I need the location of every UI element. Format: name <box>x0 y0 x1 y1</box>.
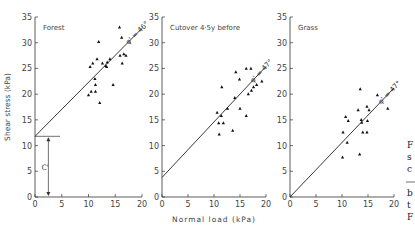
y-tick-label: 5 <box>154 167 159 176</box>
caption-fragment: F <box>407 212 413 222</box>
data-point <box>118 54 121 57</box>
x-tick-label: 0 <box>32 200 37 209</box>
data-point <box>218 132 221 135</box>
y-tick-label: 25 <box>277 64 287 73</box>
chart-panel-1: 0510152025303505101520Cutover 4·5y befor… <box>149 13 275 209</box>
data-point <box>365 130 368 133</box>
figure-canvas: 0510152025303505101520Forestφ' = 46°0510… <box>0 0 415 236</box>
fit-line <box>290 88 394 197</box>
data-point <box>98 101 101 104</box>
data-point <box>233 96 236 99</box>
y-tick-label: 10 <box>149 142 159 151</box>
data-point <box>90 90 93 93</box>
x-tick-label: 15 <box>110 200 120 209</box>
data-point <box>95 57 98 60</box>
panel-title: Cutover 4·5y before <box>170 24 240 32</box>
data-point <box>252 85 255 88</box>
data-point <box>87 93 90 96</box>
data-point <box>216 111 219 114</box>
y-tick-label: 15 <box>22 116 32 125</box>
data-point <box>365 105 368 108</box>
data-point <box>360 118 363 121</box>
data-point <box>367 108 370 111</box>
data-point <box>260 79 263 82</box>
x-tick-label: 0 <box>159 200 164 209</box>
data-point <box>238 107 241 110</box>
panel-title: Grass <box>298 24 318 32</box>
x-tick-label: 10 <box>83 200 93 209</box>
data-point <box>358 153 361 156</box>
y-tick-label: 35 <box>22 13 32 22</box>
y-tick-label: 0 <box>154 193 159 202</box>
data-point <box>121 61 124 64</box>
caption-fragment: t <box>407 200 411 210</box>
y-tick-label: 25 <box>22 64 32 73</box>
chart-panel-0: 0510152025303505101520Forestφ' = 46° <box>22 13 151 209</box>
y-tick-label: 30 <box>22 39 32 48</box>
fit-line <box>35 28 142 136</box>
data-point <box>245 114 248 117</box>
phi-annotation: φ' = 47° <box>377 79 403 106</box>
data-point <box>120 36 123 39</box>
x-tick-label: 15 <box>363 200 373 209</box>
x-tick-label: 15 <box>235 200 245 209</box>
y-tick-label: 5 <box>282 167 287 176</box>
y-tick-label: 20 <box>149 90 159 99</box>
x-tick-label: 20 <box>261 200 271 209</box>
x-tick-label: 10 <box>337 200 347 209</box>
y-tick-label: 35 <box>277 13 287 22</box>
y-tick-label: 20 <box>22 90 32 99</box>
data-point <box>376 93 379 96</box>
y-tick-label: 25 <box>149 64 159 73</box>
data-point <box>250 89 253 92</box>
panel-title: Forest <box>43 24 65 32</box>
data-point <box>89 65 92 68</box>
x-tick-label: 0 <box>287 200 292 209</box>
x-tick-label: 10 <box>209 200 219 209</box>
y-tick-label: 15 <box>277 116 287 125</box>
data-point <box>112 83 115 86</box>
y-tick-label: 30 <box>149 39 159 48</box>
y-tick-label: 10 <box>22 142 32 151</box>
data-point <box>341 156 344 159</box>
x-tick-label: 5 <box>59 200 64 209</box>
data-point <box>234 70 237 73</box>
y-tick-label: 15 <box>149 116 159 125</box>
data-point <box>346 141 349 144</box>
data-point <box>222 121 225 124</box>
data-point <box>94 83 97 86</box>
data-point <box>366 119 369 122</box>
data-point <box>108 57 111 60</box>
data-point <box>247 92 250 95</box>
x-axis-label: Normal load (kPa) <box>172 215 256 224</box>
data-point <box>91 61 94 64</box>
x-tick-label: 5 <box>185 200 190 209</box>
y-tick-label: 35 <box>149 13 159 22</box>
data-point <box>344 115 347 118</box>
cohesion-label: C' <box>41 163 48 172</box>
y-axis-label: Shear stress (kPa) <box>3 73 12 141</box>
data-point <box>255 83 258 86</box>
y-tick-label: 10 <box>277 142 287 151</box>
y-tick-label: 5 <box>27 167 32 176</box>
data-point <box>357 108 360 111</box>
data-point <box>359 87 362 90</box>
data-point <box>245 67 248 70</box>
phi-annotation: φ' = 46° <box>124 20 150 46</box>
fit-line <box>162 66 266 177</box>
y-tick-label: 0 <box>27 193 32 202</box>
data-point <box>118 25 121 28</box>
x-tick-label: 20 <box>389 200 399 209</box>
data-point <box>386 107 389 110</box>
data-point <box>94 90 97 93</box>
data-point <box>217 121 220 124</box>
data-point <box>341 130 344 133</box>
data-point <box>122 52 125 55</box>
x-tick-label: 20 <box>137 200 147 209</box>
caption-fragment: c <box>407 164 412 174</box>
data-point <box>101 61 104 64</box>
chart-panel-2: 0510152025303505101520Grassφ' = 47° <box>277 13 403 209</box>
data-point <box>347 119 350 122</box>
data-point <box>97 40 100 43</box>
caption-fragment: b <box>407 188 413 198</box>
